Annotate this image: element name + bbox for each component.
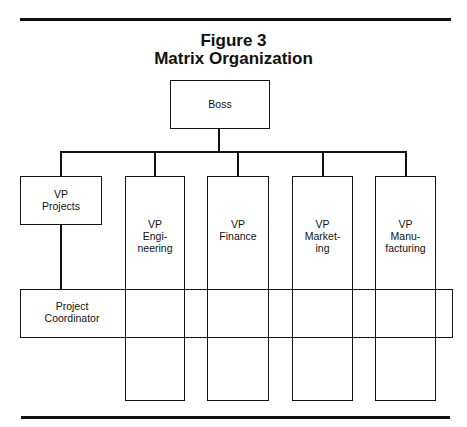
stem-manufacturing [405,151,407,176]
top-rule [20,18,451,21]
projects-to-coordinator [60,224,62,290]
horizontal-connector [60,151,406,153]
vp-manufacturing-label: VP Manu- facturing [375,218,436,254]
figure-title: Matrix Organization [0,50,467,68]
vp-marketing-label: VP Market- ing [292,218,353,254]
vp-finance-label: VP Finance [207,218,269,242]
stem-finance [237,151,239,176]
project-coordinator-label: Project Coordinator [20,300,124,324]
boss-label: Boss [170,98,270,110]
figure-number: Figure 3 [0,32,467,50]
bottom-rule [21,416,450,419]
stem-projects [60,151,62,176]
vp-projects-label: VP Projects [20,188,102,212]
stem-engineering [154,151,156,176]
vp-engineering-label: VP Engi- neering [125,218,185,254]
stem-marketing [322,151,324,176]
boss-stem [218,128,220,153]
